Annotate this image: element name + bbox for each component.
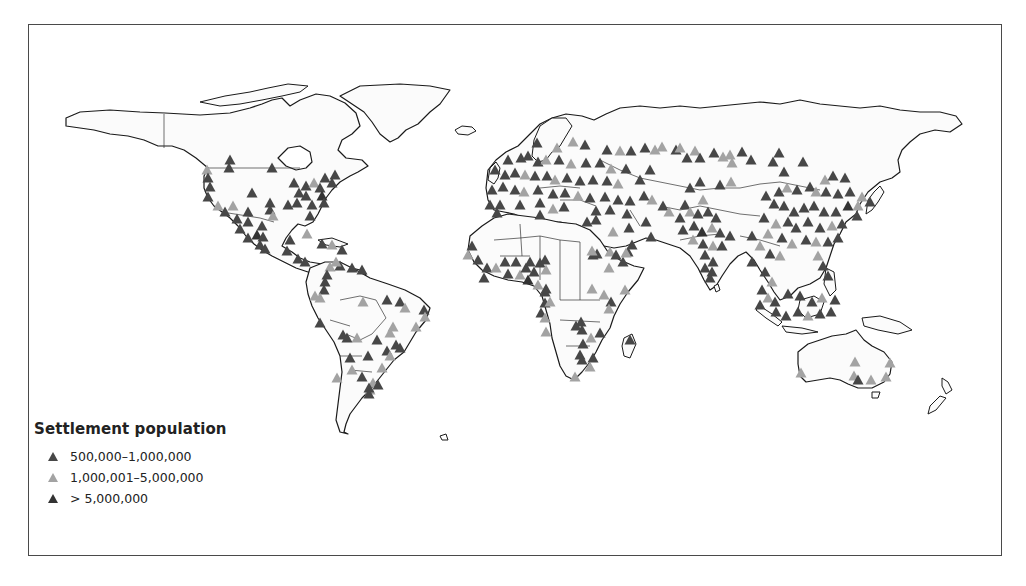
triangle-marker-icon: [48, 494, 58, 503]
tasmania: [872, 392, 880, 398]
settlement-marker-small: [479, 273, 490, 283]
legend-item-1m-5m: 1,000,001–5,000,000: [48, 467, 227, 488]
legend-item-over-5m: > 5,000,000: [48, 488, 227, 509]
iceland: [455, 126, 476, 135]
legend-label: > 5,000,000: [70, 491, 148, 506]
sri-lanka: [714, 284, 720, 292]
legend: Settlement population 500,000–1,000,000 …: [34, 420, 227, 509]
settlement-marker-small: [781, 311, 792, 321]
java: [782, 326, 818, 334]
settlement-marker-small: [826, 307, 837, 317]
settlement-marker-small: [757, 285, 768, 295]
new-zealand-north: [942, 378, 952, 394]
legend-label: 1,000,001–5,000,000: [70, 470, 203, 485]
australia-landmass: [798, 330, 892, 388]
settlement-marker-small: [830, 295, 841, 305]
arctic-archipelago: [200, 84, 308, 106]
legend-item-500k-1m: 500,000–1,000,000: [48, 446, 227, 467]
antarctic-peninsula-fragment: [440, 434, 448, 440]
settlement-marker-small: [795, 291, 806, 301]
triangle-marker-icon: [48, 473, 58, 482]
triangle-marker-icon: [48, 452, 58, 461]
settlement-marker-medium: [541, 327, 552, 337]
philippines: [824, 268, 836, 296]
legend-label: 500,000–1,000,000: [70, 449, 192, 464]
settlement-marker-medium: [817, 293, 828, 303]
new-guinea: [862, 316, 912, 334]
legend-title: Settlement population: [34, 420, 227, 438]
settlement-marker-small: [771, 307, 782, 317]
settlement-marker-medium: [302, 229, 313, 239]
new-zealand-south: [928, 396, 946, 414]
